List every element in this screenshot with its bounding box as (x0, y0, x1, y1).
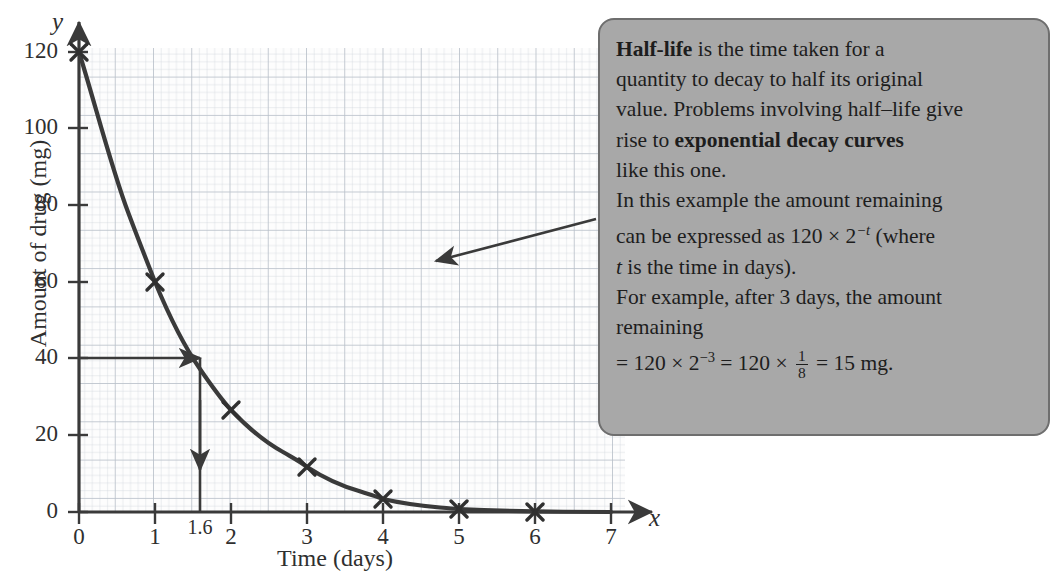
callout-bold-half-life: Half-life (616, 37, 692, 61)
x-axis-symbol: x (649, 504, 660, 532)
fraction-one-eighth: 18 (796, 348, 808, 381)
equation-part-a: = 120 × 2 (616, 351, 699, 375)
callout-line-7: can be expressed as 120 × 2−t (where (616, 215, 1038, 251)
explanation-callout: Half-life is the time taken for a quanti… (598, 18, 1050, 436)
x-tick-label-1: 1 (135, 524, 175, 550)
fraction-denominator: 8 (796, 365, 808, 381)
callout-line-10: remaining (616, 312, 1038, 342)
grid-background (79, 48, 625, 512)
callout-line-8-rest: is the time in days). (622, 255, 796, 279)
callout-line-8: t is the time in days). (616, 252, 1038, 282)
exponent-minus-3: −3 (699, 349, 715, 365)
fraction-numerator: 1 (796, 348, 808, 365)
callout-line-11-equation: = 120 × 2−3 = 120 × 18 = 15 mg. (616, 342, 1038, 382)
equation-part-c: = 15 mg. (811, 351, 894, 375)
callout-line-4: rise to exponential decay curves (616, 125, 1038, 155)
x-tick-label-6: 6 (515, 524, 555, 550)
callout-bold-exponential-decay-curves: exponential decay curves (675, 128, 904, 152)
exponent-minus-t: −t (856, 222, 870, 238)
y-tick-label-0: 0 (6, 498, 58, 524)
y-tick-label-120: 120 (6, 38, 58, 64)
callout-line-7-pre: can be expressed as 120 × 2 (616, 224, 856, 248)
callout-line-1: Half-life is the time taken for a (616, 34, 1038, 64)
figure-root: 120 100 80 60 40 20 0 0 1 1.6 2 3 4 5 6 … (0, 0, 1061, 579)
callout-line-1-rest: is the time taken for a (692, 37, 884, 61)
equation-part-b: = 120 × (715, 351, 793, 375)
callout-line-7-post: (where (870, 224, 935, 248)
x-axis-title: Time (days) (215, 545, 455, 572)
callout-line-4-pre: rise to (616, 128, 675, 152)
y-axis-symbol: y (52, 8, 63, 36)
x-tick-label-7: 7 (591, 524, 631, 550)
callout-line-5: like this one. (616, 155, 1038, 185)
callout-line-2: quantity to decay to half its original (616, 64, 1038, 94)
callout-line-6: In this example the amount remaining (616, 185, 1038, 215)
callout-line-3: value. Problems involving half–life give (616, 94, 1038, 124)
y-tick-label-20: 20 (6, 421, 58, 447)
y-axis-title: Amount of drug (mg) (25, 114, 52, 374)
callout-line-9: For example, after 3 days, the amount (616, 282, 1038, 312)
x-tick-label-0: 0 (59, 524, 99, 550)
